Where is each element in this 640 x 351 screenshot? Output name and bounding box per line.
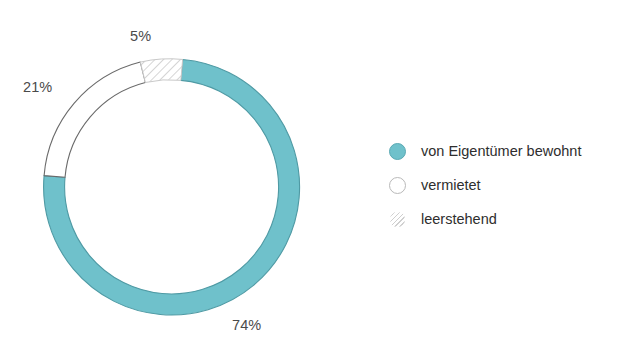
donut-svg <box>40 55 304 319</box>
data-label-von-eigentuemer-bewohnt: 74% <box>232 318 261 333</box>
legend-item-vermietet[interactable]: vermietet <box>389 177 581 194</box>
donut-chart: 5% 21% 74% von Eigentümer bewohnt vermie… <box>0 0 640 351</box>
slice-vermietet <box>44 62 145 177</box>
chart-legend: von Eigentümer bewohnt vermietet leerste… <box>389 143 581 228</box>
slice-leerstehend <box>140 59 182 83</box>
legend-label: leerstehend <box>421 212 497 227</box>
donut-graphic <box>40 55 304 319</box>
legend-label: von Eigentümer bewohnt <box>421 144 581 159</box>
legend-item-leerstehend[interactable]: leerstehend <box>389 211 581 228</box>
filled-circle-icon <box>389 143 406 160</box>
open-circle-icon <box>389 177 406 194</box>
legend-item-von-eigentuemer-bewohnt[interactable]: von Eigentümer bewohnt <box>389 143 581 160</box>
data-label-vermietet: 21% <box>23 80 52 95</box>
hatched-circle-icon <box>389 211 406 228</box>
legend-label: vermietet <box>421 178 481 193</box>
data-label-leerstehend: 5% <box>130 29 151 44</box>
